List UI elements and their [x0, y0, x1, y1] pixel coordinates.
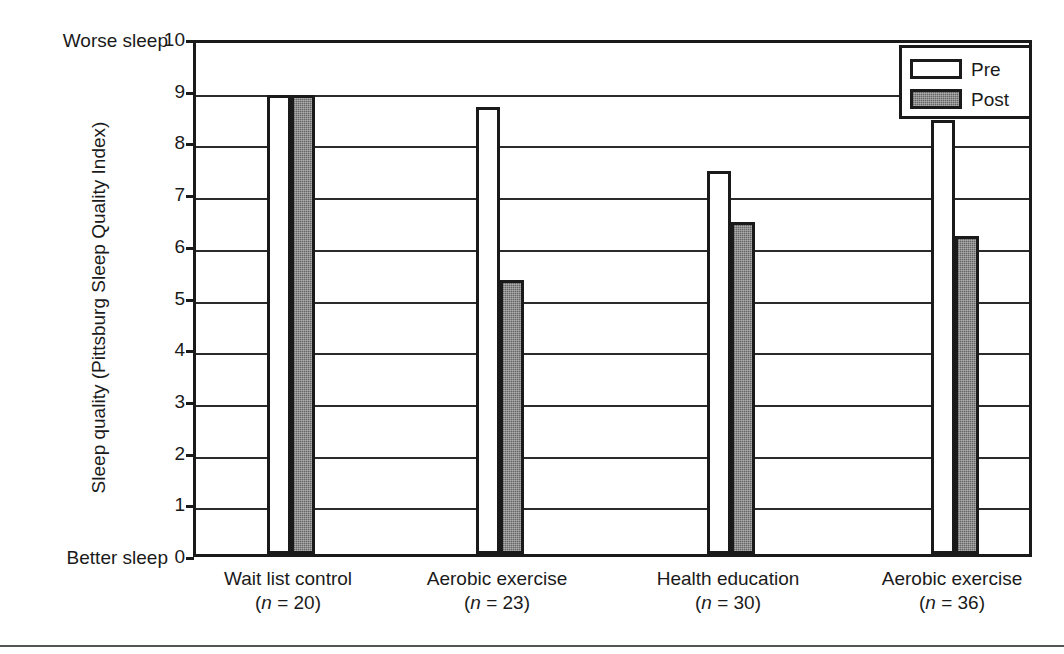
- bar-post-group-1: [291, 95, 315, 554]
- y-tick-label-6: 6: [145, 237, 185, 256]
- chart-legend: Pre Post: [899, 45, 1032, 119]
- x-axis-label-name: Health education: [657, 568, 800, 589]
- x-axis-label-sample-size: (n = 20): [178, 591, 398, 615]
- y-tick-label-1: 1: [145, 495, 185, 514]
- y-tick-label-4: 4: [145, 340, 185, 359]
- y-axis-title: Sleep quality (Pittsburg Sleep Quality I…: [89, 68, 108, 548]
- gridline-8: [196, 146, 1029, 148]
- x-axis-label-sample-size: (n = 23): [387, 591, 607, 615]
- legend-swatch-post-icon: [910, 89, 962, 109]
- x-axis-label-group-1: Wait list control(n = 20): [178, 567, 398, 615]
- y-tick-label-0: 0: [145, 547, 185, 566]
- legend-swatch-pre-icon: [910, 59, 962, 79]
- y-tick-label-3: 3: [145, 392, 185, 411]
- figure-container: Worse sleep Better sleep Sleep quality (…: [0, 0, 1064, 654]
- y-tick-label-9: 9: [145, 82, 185, 101]
- x-axis-label-name: Aerobic exercise: [427, 568, 567, 589]
- y-tick-label-2: 2: [145, 444, 185, 463]
- legend-item-post: Post: [910, 84, 1021, 114]
- bar-pre-group-4: [931, 120, 955, 554]
- y-tick-label-8: 8: [145, 133, 185, 152]
- y-tick-label-10: 10: [145, 30, 185, 49]
- bar-pre-group-2: [476, 107, 500, 554]
- x-axis-label-sample-size: (n = 30): [618, 591, 838, 615]
- footer-rule: [0, 645, 1064, 647]
- x-axis-label-group-2: Aerobic exercise(n = 23): [387, 567, 607, 615]
- x-axis-label-name: Wait list control: [224, 568, 352, 589]
- legend-label-pre: Pre: [971, 60, 1001, 79]
- bar-pre-group-1: [267, 95, 291, 554]
- gridline-7: [196, 198, 1029, 200]
- gridline-4: [196, 353, 1029, 355]
- bar-post-group-4: [955, 236, 979, 554]
- legend-item-pre: Pre: [910, 54, 1021, 84]
- legend-label-post: Post: [971, 90, 1009, 109]
- x-axis-label-group-4: Aerobic exercise(n = 36): [842, 567, 1062, 615]
- gridline-3: [196, 405, 1029, 407]
- gridline-1: [196, 508, 1029, 510]
- gridline-5: [196, 302, 1029, 304]
- gridline-6: [196, 250, 1029, 252]
- bar-post-group-3: [731, 222, 755, 554]
- y-tick-label-5: 5: [145, 289, 185, 308]
- bar-post-group-2: [500, 280, 524, 554]
- x-axis-label-sample-size: (n = 36): [842, 591, 1062, 615]
- x-axis-label-group-3: Health education(n = 30): [618, 567, 838, 615]
- y-tick-label-7: 7: [145, 185, 185, 204]
- y-tick-mark-0: [186, 557, 194, 560]
- gridline-2: [196, 457, 1029, 459]
- bar-pre-group-3: [707, 171, 731, 554]
- x-axis-label-name: Aerobic exercise: [882, 568, 1022, 589]
